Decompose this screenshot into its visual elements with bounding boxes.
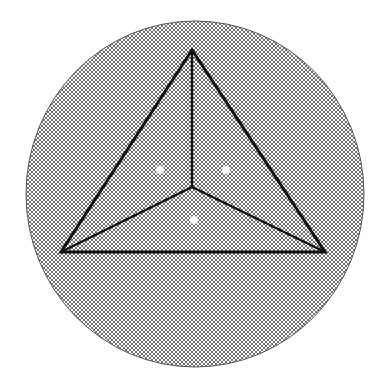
- diagram-canvas: [0, 0, 381, 390]
- hatched-circle-region: [26, 21, 364, 367]
- dot-left-subregion: [156, 166, 164, 174]
- dot-right-subregion: [222, 166, 230, 174]
- dot-bottom-subregion: [190, 216, 198, 224]
